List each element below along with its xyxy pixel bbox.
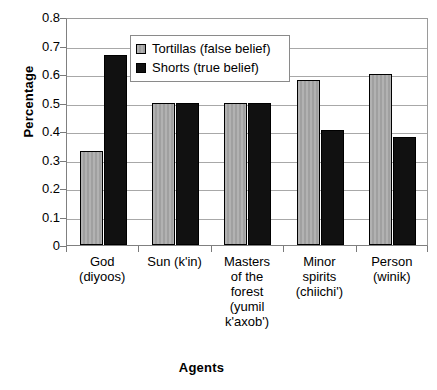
bar (152, 103, 175, 246)
y-axis-tick-mark (60, 246, 66, 247)
x-axis-title: Agents (0, 360, 437, 375)
x-axis-tick-mark (138, 246, 139, 252)
bar (104, 55, 127, 245)
bar (176, 103, 199, 246)
y-axis-tick-label: 0.2 (20, 182, 60, 195)
bar-group (357, 19, 429, 245)
legend-entry[interactable]: Shorts (true belief) (136, 58, 284, 77)
y-axis-tick-label: 0.5 (20, 97, 60, 110)
x-axis-category-label-line: k'axob') (203, 314, 291, 329)
bar-group (284, 19, 356, 245)
bar (369, 74, 392, 245)
bar (224, 103, 247, 246)
y-axis-tick-labels: 0.80.70.60.50.40.30.20.10 (20, 18, 60, 246)
bar-group (67, 19, 139, 245)
x-axis-tick-marks (66, 246, 428, 252)
y-axis-tick-mark (60, 75, 66, 76)
legend-swatch-icon (136, 63, 146, 73)
bar (321, 130, 344, 245)
x-axis-tick-mark (211, 246, 212, 252)
y-axis-tick-label: 0.8 (20, 11, 60, 24)
legend-swatch-icon (136, 44, 146, 54)
x-axis-title-text: Agents (179, 360, 224, 375)
y-axis-tick-label: 0.6 (20, 68, 60, 81)
y-axis-tick-mark (60, 218, 66, 219)
x-axis-tick-mark (427, 246, 428, 252)
chart-legend: Tortillas (false belief)Shorts (true bel… (130, 35, 290, 82)
y-axis-tick-label: 0.3 (20, 154, 60, 167)
x-axis-category-label-line: (diyoos) (58, 269, 146, 284)
bar (80, 151, 103, 245)
x-axis-category-label-line: Person (348, 254, 436, 269)
x-axis-tick-mark (66, 246, 67, 252)
x-axis-category-label-line: (chiichi') (275, 284, 363, 299)
y-axis-tick-mark (60, 18, 66, 19)
x-axis-category-label-line: (winik) (348, 269, 436, 284)
x-axis-category-labels: God(diyoos)Sun (k'in)Mastersof theforest… (66, 254, 428, 354)
y-axis-tick-mark (60, 104, 66, 105)
y-axis-tick-mark (60, 132, 66, 133)
y-axis-tick-label: 0.1 (20, 211, 60, 224)
y-axis-tick-label: 0.7 (20, 40, 60, 53)
bar (393, 137, 416, 245)
y-axis-tick-label: 0 (20, 239, 60, 252)
bar-chart: Percentage 0.80.70.60.50.40.30.20.10 God… (0, 0, 437, 390)
x-axis-tick-mark (356, 246, 357, 252)
legend-label: Shorts (true belief) (152, 61, 259, 75)
legend-label: Tortillas (false belief) (152, 42, 271, 56)
legend-entry[interactable]: Tortillas (false belief) (136, 39, 284, 58)
y-axis-tick-mark (60, 161, 66, 162)
bar (248, 103, 271, 246)
x-axis-category-label: Person(winik) (348, 254, 436, 284)
y-axis-tick-mark (60, 47, 66, 48)
x-axis-tick-mark (283, 246, 284, 252)
y-axis-tick-mark (60, 189, 66, 190)
y-axis-tick-label: 0.4 (20, 125, 60, 138)
x-axis-category-label-line: (yumil (203, 299, 291, 314)
bar (297, 80, 320, 245)
